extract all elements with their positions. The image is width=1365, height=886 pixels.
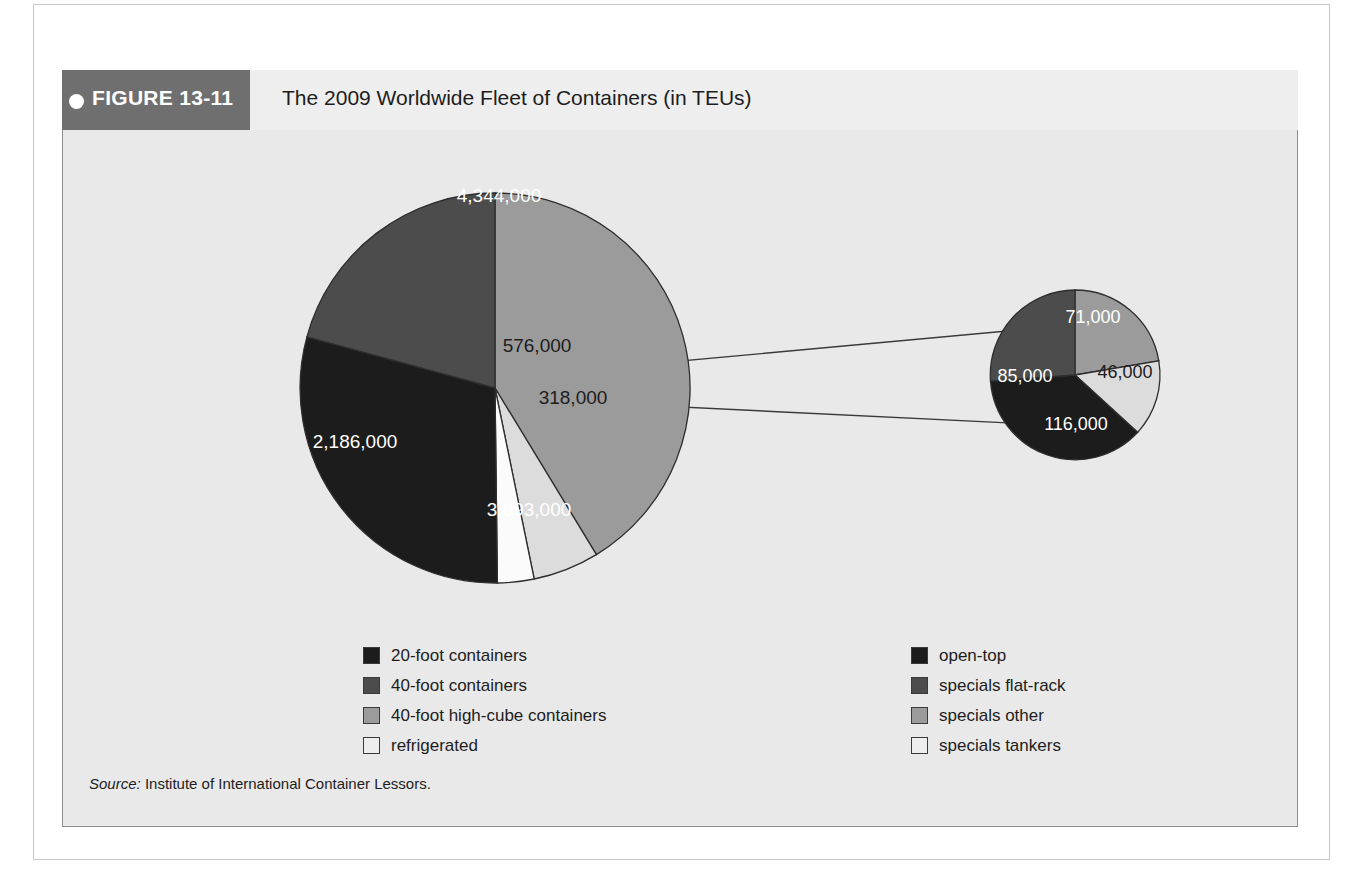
- legend-item-20-foot-containers[interactable]: 20-foot containers: [363, 640, 606, 670]
- figure-title-band: The 2009 Worldwide Fleet of Containers (…: [62, 70, 1298, 131]
- legend-label-open-top: open-top: [939, 647, 1006, 664]
- legend-item-40-foot-high-cube-containers[interactable]: 40-foot high-cube containers: [363, 700, 606, 730]
- main-label-20ft: 3,093,000: [487, 499, 572, 520]
- figure-title-panel: The 2009 Worldwide Fleet of Containers (…: [250, 70, 1298, 131]
- legend-label-specials-other: specials other: [939, 707, 1044, 724]
- figure-number-label: FIGURE 13-11: [92, 86, 233, 110]
- specials-label-tankers: 46,000: [1097, 362, 1152, 382]
- legend-main-pie: 20-foot containers 40-foot containers 40…: [363, 640, 606, 760]
- specials-label-other: 71,000: [1065, 307, 1120, 327]
- legend-label-20-foot-containers: 20-foot containers: [391, 647, 527, 664]
- legend-item-specials-flat-rack[interactable]: specials flat-rack: [911, 670, 1066, 700]
- legend-specials-pie: open-top specials flat-rack specials oth…: [911, 640, 1066, 760]
- legend-item-specials-tankers[interactable]: specials tankers: [911, 730, 1066, 760]
- legend-swatch-open-top: [911, 647, 928, 664]
- figure-number-panel: FIGURE 13-11: [62, 70, 250, 131]
- legend-swatch-specials-other: [911, 707, 928, 724]
- legend-swatch-refrigerated: [363, 737, 380, 754]
- main-label-specials: 318,000: [539, 387, 608, 408]
- bullet-dot-icon: [69, 94, 84, 109]
- legend-item-refrigerated[interactable]: refrigerated: [363, 730, 606, 760]
- legend-item-specials-other[interactable]: specials other: [911, 700, 1066, 730]
- legend-swatch-specials-flat-rack: [911, 677, 928, 694]
- source-prefix: Source:: [89, 775, 141, 792]
- specials-label-open-top: 116,000: [1044, 414, 1108, 434]
- legend-item-40-foot-containers[interactable]: 40-foot containers: [363, 670, 606, 700]
- legend-label-40-foot-containers: 40-foot containers: [391, 677, 527, 694]
- figure-body: 4,344,000 576,000 318,000 3,093,000 2,18…: [62, 130, 1298, 827]
- main-pie-final: [300, 193, 690, 583]
- legend-label-specials-tankers: specials tankers: [939, 737, 1061, 754]
- main-label-40ft: 2,186,000: [313, 431, 398, 452]
- main-label-refrigerated: 576,000: [503, 335, 572, 356]
- legend-item-open-top[interactable]: open-top: [911, 640, 1066, 670]
- legend-label-40-foot-high-cube-containers: 40-foot high-cube containers: [391, 707, 606, 724]
- figure-title: The 2009 Worldwide Fleet of Containers (…: [282, 86, 752, 110]
- main-label-high-cube: 4,344,000: [457, 185, 542, 206]
- legend-swatch-40-foot-containers: [363, 677, 380, 694]
- specials-label-flat-rack: 85,000: [997, 366, 1052, 386]
- legend-label-refrigerated: refrigerated: [391, 737, 478, 754]
- source-note: Source: Institute of International Conta…: [89, 775, 431, 792]
- legend-swatch-40-foot-high-cube-containers: [363, 707, 380, 724]
- legend-label-specials-flat-rack: specials flat-rack: [939, 677, 1066, 694]
- legend-swatch-20-foot-containers: [363, 647, 380, 664]
- pie-charts-graphic: 4,344,000 576,000 318,000 3,093,000 2,18…: [63, 130, 1299, 827]
- legend-swatch-specials-tankers: [911, 737, 928, 754]
- source-text: Institute of International Container Les…: [145, 775, 431, 792]
